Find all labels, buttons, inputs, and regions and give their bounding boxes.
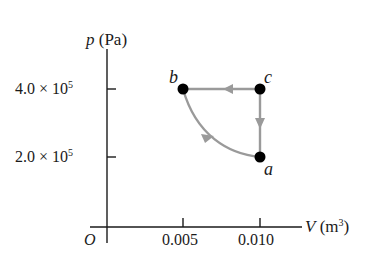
y-tick-mantissa: 4.0 × 10 bbox=[15, 80, 68, 97]
x-axis-unit: (m bbox=[320, 217, 339, 236]
y-tick-exponent: 5 bbox=[68, 79, 73, 90]
y-axis-symbol: p bbox=[86, 30, 95, 49]
y-axis-label: p (Pa) bbox=[86, 32, 127, 48]
y-tick-label-2e5: 2.0 × 105 bbox=[15, 149, 73, 165]
path-a-to-b bbox=[183, 89, 260, 157]
x-axis-symbol: V bbox=[305, 217, 315, 236]
y-tick-mantissa: 2.0 × 10 bbox=[15, 148, 68, 165]
point-b bbox=[178, 84, 189, 95]
arrow-right-icon bbox=[223, 84, 233, 94]
x-tick-label-0.005: 0.005 bbox=[162, 232, 198, 248]
point-b-label: b bbox=[169, 68, 178, 86]
y-tick-exponent: 5 bbox=[68, 147, 73, 158]
y-axis-unit: (Pa) bbox=[99, 30, 127, 49]
point-a-label: a bbox=[264, 160, 273, 178]
x-axis-unit-close: ) bbox=[344, 217, 350, 236]
point-c-label: c bbox=[264, 68, 272, 86]
x-axis-label: V (m3) bbox=[305, 219, 349, 235]
arrow-down-icon bbox=[255, 118, 265, 129]
origin-label: O bbox=[84, 232, 96, 248]
x-tick-label-0.010: 0.010 bbox=[238, 232, 274, 248]
y-tick-label-4e5: 4.0 × 105 bbox=[15, 81, 73, 97]
